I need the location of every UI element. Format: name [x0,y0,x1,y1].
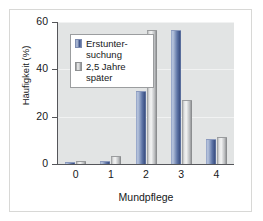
chart-legend: Erstunter- suchung 2,5 Jahre später [70,34,154,88]
legend-swatch-blue-icon [75,39,82,48]
legend-item-zweieinhalb-jahre-spaeter: 2,5 Jahre später [75,61,149,83]
y-tick-mark [52,22,57,23]
bar-3-series1 [171,30,181,164]
y-tick-label: 0 [22,158,48,169]
y-tick-mark [52,164,57,165]
x-tick-label-2: 2 [131,168,161,180]
gridline [58,22,234,23]
x-tick-label-3: 3 [166,168,196,180]
legend-label-erstuntersuchung: Erstunter- suchung [86,38,128,60]
legend-item-erstuntersuchung: Erstunter- suchung [75,38,149,60]
legend-label-line2: suchung [86,49,122,60]
x-tick-label-1: 1 [96,168,126,180]
y-axis-line [57,22,58,165]
x-tick-label-4: 4 [201,168,231,180]
x-axis-line [57,164,234,165]
y-tick-mark [52,117,57,118]
legend-swatch-gray-icon [75,62,82,71]
legend-label-zweieinhalb-jahre-spaeter: 2,5 Jahre später [86,61,149,83]
x-tick-label-0: 0 [61,168,91,180]
y-axis-title: Häufigkeit (%) [20,31,31,121]
bar-chart-figure: 0204060 Häufigkeit (%) 01234 Mundpflege … [10,10,253,213]
bar-2-series1 [136,91,146,164]
y-tick-mark [52,69,57,70]
y-tick-label: 60 [22,16,48,27]
bar-3-series2 [182,100,192,164]
bar-1-series2 [111,156,121,164]
legend-label-line1: Erstunter- [86,38,128,49]
x-axis-title: Mundpflege [58,191,234,203]
bar-4-series1 [206,139,216,164]
chart-card: 0204060 Häufigkeit (%) 01234 Mundpflege … [9,9,252,212]
bar-4-series2 [217,137,227,164]
